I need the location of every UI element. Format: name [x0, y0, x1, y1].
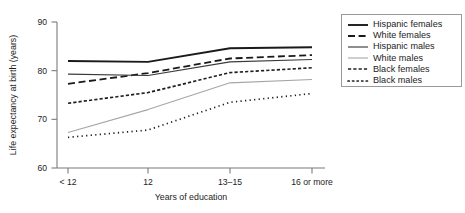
legend-item-label: Hispanic males	[373, 42, 435, 51]
y-axis-ticks: 60708090	[37, 17, 57, 173]
legend-item[interactable]: Hispanic males	[347, 41, 456, 52]
legend-item-label: White males	[373, 54, 423, 63]
series-line	[68, 68, 312, 104]
legend-item-label: Black females	[373, 65, 430, 74]
series-lines	[68, 47, 312, 137]
legend-line-swatch	[347, 64, 369, 74]
legend-item[interactable]: Black males	[347, 75, 456, 86]
legend-item-label: White females	[373, 31, 431, 40]
series-line	[68, 47, 312, 62]
legend-line-swatch	[347, 53, 369, 63]
series-line	[68, 94, 312, 138]
series-line	[68, 55, 312, 84]
x-tick-label: 13–15	[218, 177, 242, 187]
y-tick-label: 60	[37, 163, 47, 173]
y-tick-label: 70	[37, 114, 47, 124]
y-tick-label: 80	[37, 66, 47, 76]
legend-line-swatch	[347, 76, 369, 86]
chart-legend: Hispanic femalesWhite femalesHispanic ma…	[341, 14, 462, 87]
legend-line-swatch	[347, 31, 369, 41]
legend-item[interactable]: White females	[347, 30, 456, 41]
x-tick-label: 16 or more	[291, 177, 333, 187]
x-tick-label: < 12	[60, 177, 77, 187]
legend-item-label: Hispanic females	[373, 20, 442, 29]
y-tick-label: 90	[37, 17, 47, 27]
legend-line-swatch	[347, 42, 369, 52]
x-tick-label: 12	[143, 177, 153, 187]
legend-item[interactable]: Black females	[347, 64, 456, 75]
life-expectancy-line-chart: 60708090 < 121213–1516 or more Years of …	[0, 0, 465, 213]
legend-item[interactable]: White males	[347, 53, 456, 64]
series-line	[68, 79, 312, 132]
y-axis-title: Life expectancy at birth (years)	[8, 35, 18, 155]
legend-item[interactable]: Hispanic females	[347, 19, 456, 30]
legend-item-label: Black males	[373, 76, 422, 85]
legend-line-swatch	[347, 20, 369, 30]
x-axis-title: Years of education	[155, 192, 228, 202]
x-axis-ticks: < 121213–1516 or more	[60, 168, 333, 187]
